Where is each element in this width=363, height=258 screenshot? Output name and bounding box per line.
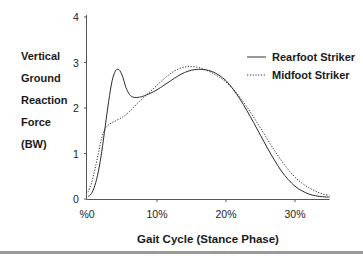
chart: Vertical Ground Reaction Force (BW) 0123…: [0, 0, 363, 258]
legend: Rearfoot Striker Midfoot Striker: [247, 51, 356, 81]
y-axis-title: Vertical Ground Reaction Force (BW): [21, 50, 68, 150]
y-axis-title-line: (BW): [21, 138, 47, 150]
y-axis-title-line: Force: [21, 116, 51, 128]
x-tick-label: 20%: [215, 208, 236, 220]
y-tick-label: 2: [73, 102, 79, 114]
y-tick-label: 3: [73, 57, 79, 69]
legend-label-midfoot: Midfoot Striker: [272, 69, 350, 81]
series-group: [88, 67, 330, 198]
y-axis-title-line: Vertical: [21, 50, 60, 62]
y-axis-title-line: Ground: [21, 72, 61, 84]
x-ticks: %010%20%30%: [79, 200, 305, 221]
x-tick-label: %0: [79, 208, 94, 220]
y-ticks: 01234: [73, 11, 86, 205]
series-line-rearfoot-striker: [88, 69, 330, 197]
y-tick-label: 4: [73, 11, 79, 23]
y-axis-title-line: Reaction: [21, 94, 68, 106]
bottom-divider: [0, 251, 363, 254]
legend-label-rearfoot: Rearfoot Striker: [272, 51, 356, 63]
y-tick-label: 0: [73, 193, 79, 205]
x-tick-label: 30%: [284, 208, 305, 220]
series-line-midfoot-striker: [88, 67, 330, 196]
y-tick-label: 1: [73, 148, 79, 160]
x-tick-label: 10%: [146, 208, 167, 220]
x-axis-title: Gait Cycle (Stance Phase): [137, 233, 279, 245]
